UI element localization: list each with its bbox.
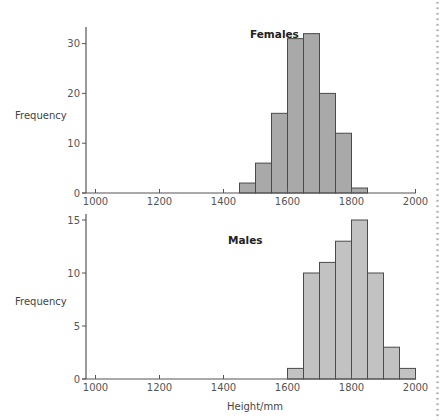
x-tick-label: 1600 — [275, 382, 300, 393]
histogram-bar — [352, 188, 368, 193]
y-tick-label: 10 — [67, 268, 80, 279]
y-tick-label: 30 — [67, 38, 80, 49]
histogram-bar — [336, 133, 352, 193]
x-tick-label: 1400 — [211, 196, 236, 207]
histogram-bar — [288, 39, 304, 193]
histogram-bar — [288, 368, 304, 379]
x-tick-label: 1600 — [275, 196, 300, 207]
histogram-bar — [304, 34, 320, 193]
y-axis-label-top: Frequency — [15, 110, 67, 121]
page-edge-dotted-line — [436, 0, 439, 420]
histogram-bar — [320, 93, 336, 193]
y-tick-label: 0 — [74, 374, 80, 385]
x-tick-label: 1400 — [211, 382, 236, 393]
histogram-bar — [336, 241, 352, 379]
x-tick-label: 1000 — [83, 382, 108, 393]
histogram-bar — [352, 220, 368, 379]
x-tick-label: 2000 — [403, 196, 428, 207]
histogram-bar — [400, 368, 416, 379]
x-tick-label: 1800 — [339, 382, 364, 393]
y-axis-label-bottom: Frequency — [15, 296, 67, 307]
x-tick-label: 2000 — [403, 382, 428, 393]
histogram-bar — [384, 347, 400, 379]
histogram-bar — [304, 273, 320, 379]
females-title: Females — [250, 28, 299, 40]
histogram-bar — [256, 163, 272, 193]
y-tick-label: 10 — [67, 138, 80, 149]
y-tick-label: 20 — [67, 88, 80, 99]
y-tick-label: 5 — [74, 321, 80, 332]
x-axis-label: Height/mm — [227, 401, 283, 412]
histogram-bar — [368, 273, 384, 379]
histogram-figure: 0102030100012001400160018002000 05101510… — [0, 0, 440, 420]
x-tick-label: 1000 — [83, 196, 108, 207]
y-tick-label: 0 — [74, 188, 80, 199]
x-tick-label: 1200 — [147, 196, 172, 207]
histogram-bar — [272, 113, 288, 193]
x-tick-label: 1200 — [147, 382, 172, 393]
males-title: Males — [228, 234, 263, 246]
histogram-bar — [320, 262, 336, 379]
histogram-bar — [240, 183, 256, 193]
females-histogram: 0102030100012001400160018002000 — [67, 27, 428, 207]
x-tick-label: 1800 — [339, 196, 364, 207]
y-tick-label: 15 — [67, 215, 80, 226]
